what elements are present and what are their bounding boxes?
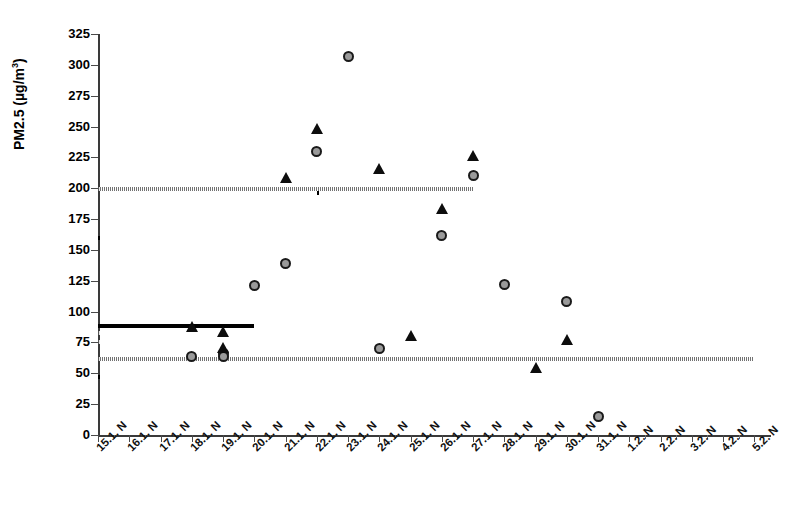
y-axis-tick-label: 25 [46, 396, 90, 411]
data-point-triangle [217, 342, 229, 353]
plot-area [98, 34, 770, 435]
y-axis-tick-label: 150 [46, 242, 90, 257]
mean-segment-line [317, 191, 319, 195]
data-point-circle [436, 230, 447, 241]
y-axis-tick [91, 342, 98, 343]
data-point-circle [561, 296, 572, 307]
y-axis-title-base: PM2.5 (µg/m [11, 68, 27, 150]
data-point-circle [374, 343, 385, 354]
mean-segment-line [98, 324, 254, 328]
data-point-triangle [186, 321, 198, 332]
pm25-scatter-chart: PM2.5 (µg/m3) 02550751001251501752002252… [0, 0, 806, 508]
y-axis-title-close: ) [11, 58, 27, 63]
y-axis-tick [91, 96, 98, 97]
y-axis-tick [91, 404, 98, 405]
y-axis-tick-label: 325 [46, 26, 90, 41]
data-point-circle [468, 170, 479, 181]
y-axis-tick-label: 100 [46, 304, 90, 319]
y-axis-tick-label: 175 [46, 211, 90, 226]
data-point-circle [499, 279, 510, 290]
data-point-circle [280, 258, 291, 269]
y-axis-tick-label: 50 [46, 365, 90, 380]
y-axis-tick [91, 281, 98, 282]
data-point-triangle [530, 362, 542, 373]
y-axis-tick-label: 75 [46, 334, 90, 349]
y-axis-title-exponent: 3 [10, 63, 20, 68]
mean-segment-line [98, 187, 473, 191]
data-point-circle [249, 280, 260, 291]
y-axis-tick [91, 65, 98, 66]
data-point-triangle [311, 123, 323, 134]
mean-segment-line [98, 331, 100, 335]
y-axis-tick [91, 250, 98, 251]
data-point-circle [311, 146, 322, 157]
data-point-triangle [405, 330, 417, 341]
data-point-circle [343, 51, 354, 62]
y-axis-tick-label: 125 [46, 273, 90, 288]
data-point-triangle [561, 334, 573, 345]
y-axis-title: PM2.5 (µg/m3) [10, 0, 27, 150]
data-point-circle [593, 411, 604, 422]
y-axis-tick [91, 34, 98, 35]
data-point-triangle [436, 203, 448, 214]
y-axis-tick [91, 373, 98, 374]
data-point-triangle [217, 326, 229, 337]
y-axis-tick-label: 200 [46, 180, 90, 195]
mean-segment-line [98, 375, 100, 379]
data-point-triangle [467, 150, 479, 161]
y-axis-tick [91, 157, 98, 158]
y-axis-tick-label: 250 [46, 119, 90, 134]
y-axis-tick-label: 225 [46, 149, 90, 164]
y-axis-tick [91, 127, 98, 128]
mean-segment-line [98, 340, 100, 344]
data-point-circle [186, 351, 197, 362]
y-axis-tick [91, 219, 98, 220]
y-axis-tick-label: 0 [46, 427, 90, 442]
y-axis-tick [91, 188, 98, 189]
data-point-triangle [373, 163, 385, 174]
y-axis-tick-label: 275 [46, 88, 90, 103]
data-point-triangle [280, 172, 292, 183]
y-axis-tick [91, 435, 98, 436]
mean-segment-line [98, 236, 100, 240]
y-axis-tick [91, 312, 98, 313]
y-axis-tick-label: 300 [46, 57, 90, 72]
